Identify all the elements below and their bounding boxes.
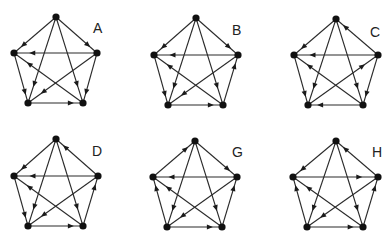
vertex-t (52, 13, 59, 20)
graph-label: G (232, 144, 243, 160)
vertex-l (289, 173, 296, 180)
arrowhead-icon (68, 223, 74, 228)
arrowhead-icon (309, 52, 315, 57)
edge-bl-to-l (293, 177, 307, 227)
edge-bl-to-l (153, 177, 167, 227)
vertex-t (52, 135, 59, 142)
arrowhead-icon (29, 173, 35, 178)
arrowhead-icon (74, 80, 79, 87)
arrowhead-icon (41, 88, 47, 94)
edge-r-to-bl (28, 53, 97, 103)
graph-label: A (93, 20, 103, 36)
graph-label: C (370, 24, 380, 40)
edge-t-to-br (336, 19, 363, 105)
graph-b: B (150, 14, 241, 108)
arrowhead-icon (166, 186, 172, 192)
vertex-t (332, 15, 339, 22)
vertex-br (359, 223, 366, 230)
edge-r-to-bl (28, 176, 98, 226)
vertex-bl (303, 223, 310, 230)
arrowhead-icon (208, 102, 214, 107)
vertex-r (94, 172, 101, 179)
arrowhead-icon (214, 82, 219, 89)
edge-br-to-r (223, 55, 238, 105)
arrowhead-icon (213, 204, 218, 211)
arrowhead-icon (33, 80, 38, 87)
arrowhead-icon (27, 185, 33, 191)
edge-t-to-bl (167, 141, 195, 227)
vertex-r (233, 173, 240, 180)
arrowhead-icon (317, 102, 323, 107)
vertex-t (191, 137, 198, 144)
edge-t-to-br (336, 141, 363, 227)
edge-l-to-bl (154, 55, 168, 105)
vertex-bl (24, 99, 31, 106)
arrowhead-icon (33, 203, 38, 210)
arrowhead-icon (307, 64, 313, 70)
graph-h: H (289, 137, 382, 230)
edge-l-to-bl (14, 53, 28, 103)
vertex-r (234, 51, 241, 58)
arrowhead-icon (371, 185, 376, 191)
arrowhead-icon (29, 50, 35, 55)
vertex-l (10, 172, 17, 179)
edge-br-to-l (153, 177, 222, 227)
graph-label: H (372, 144, 382, 160)
edge-r-to-br (83, 53, 97, 103)
graph-d: D (10, 135, 102, 229)
edge-br-to-l (294, 55, 363, 105)
tournament-diagram-canvas: ABCDGH (0, 0, 391, 241)
edge-br-to-l (293, 177, 363, 227)
arrowhead-icon (359, 64, 365, 70)
vertex-t (332, 137, 339, 144)
arrowhead-icon (365, 90, 370, 96)
graph-c: C (290, 15, 381, 108)
arrowhead-icon (320, 212, 326, 218)
graph-a: A (10, 13, 103, 106)
arrowhead-icon (230, 185, 235, 191)
edge-br-to-r (363, 177, 378, 227)
edge-t-to-br (56, 17, 83, 103)
edge-r-to-bl (167, 177, 237, 227)
arrowhead-icon (312, 204, 317, 211)
vertex-br (219, 101, 226, 108)
vertex-l (150, 51, 157, 58)
edge-l-to-bl (294, 55, 308, 105)
graph-label: B (232, 22, 241, 38)
edge-bl-to-r (308, 55, 378, 105)
edge-t-to-bl (308, 19, 336, 105)
edge-t-to-br (195, 141, 222, 227)
edge-t-to-bl (307, 141, 336, 227)
vertex-r (93, 49, 100, 56)
arrowhead-icon (74, 203, 79, 210)
vertex-bl (24, 222, 31, 229)
edge-br-to-r (222, 177, 237, 227)
vertex-l (10, 49, 17, 56)
vertex-r (374, 51, 381, 58)
arrowhead-icon (231, 63, 236, 69)
edge-r-to-br (363, 55, 378, 105)
arrowhead-icon (181, 90, 187, 96)
vertex-bl (164, 101, 171, 108)
arrowhead-icon (167, 64, 173, 70)
arrowhead-icon (207, 224, 213, 229)
edge-r-to-bl (307, 177, 378, 227)
graph-g: G (149, 137, 242, 230)
graph-label: D (92, 143, 102, 159)
arrowhead-icon (27, 62, 33, 68)
edge-br-to-l (14, 176, 83, 226)
arrowhead-icon (354, 82, 359, 89)
edge-br-to-l (14, 53, 83, 103)
arrowhead-icon (306, 186, 312, 192)
edge-t-to-bl (28, 17, 56, 103)
vertex-t (192, 14, 199, 21)
edge-l-to-bl (14, 176, 28, 226)
vertex-l (290, 51, 297, 58)
arrowhead-icon (91, 184, 96, 190)
edge-br-to-r (83, 176, 98, 226)
edge-br-to-l (154, 55, 223, 105)
vertex-br (218, 223, 225, 230)
vertex-bl (304, 101, 311, 108)
arrowhead-icon (168, 174, 174, 179)
vertex-br (79, 99, 86, 106)
